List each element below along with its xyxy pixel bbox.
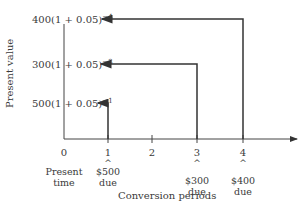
- tick-label-2: 2: [142, 147, 162, 158]
- x-axis-label: Conversion periods: [118, 190, 216, 201]
- tick-label-4: 4: [233, 147, 253, 158]
- discount-path-400: [102, 19, 243, 139]
- tick-label-0: 0: [54, 147, 74, 158]
- caret-4: ^: [233, 158, 253, 168]
- payment-label-400: $400 due: [223, 175, 263, 197]
- discount-path-300: [101, 64, 197, 139]
- tick-label-3: 3: [187, 147, 207, 158]
- y-axis-label: Present value: [4, 39, 15, 108]
- payment-label-500: $500 due: [88, 166, 128, 188]
- present-time-label: Present time: [44, 166, 84, 188]
- pv-label-500: 500(1 + 0.05)−1: [32, 96, 113, 109]
- caret-3: ^: [187, 158, 207, 168]
- tick-label-1: 1: [98, 147, 118, 158]
- pv-label-300: 300(1 + 0.05)−3: [32, 57, 113, 70]
- pv-label-400: 400(1 + 0.05)−4: [32, 12, 113, 25]
